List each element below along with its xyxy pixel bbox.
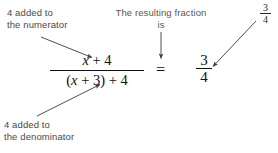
main-fraction-numerator: x + 4 — [50, 52, 144, 70]
main-fraction-denominator: (x + 3) + 4 — [50, 71, 144, 89]
arrow-to-denominator — [37, 85, 100, 117]
small-fraction-label: 3 4 — [260, 2, 271, 25]
main-fraction: x + 4 (x + 3) + 4 — [50, 52, 144, 89]
result-fraction-denominator: 4 — [196, 69, 212, 85]
small-fraction-denominator: 4 — [260, 14, 271, 25]
arrow-to-result-fraction — [213, 21, 256, 67]
caption-resulting-fraction-note: The resulting fraction is — [112, 7, 210, 30]
result-fraction: 3 4 — [196, 52, 212, 85]
figure-canvas: 4 added to the numerator 4 added to the … — [0, 0, 278, 153]
small-fraction-numerator: 3 — [260, 2, 271, 13]
numerator-term: + 4 — [89, 52, 112, 68]
caption-numerator-note: 4 added to the numerator — [7, 7, 67, 30]
denominator-term: + 3) + 4 — [78, 72, 128, 88]
equals-sign: = — [156, 61, 165, 79]
caption-denominator-note: 4 added to the denominator — [4, 119, 74, 142]
result-fraction-numerator: 3 — [196, 52, 212, 68]
